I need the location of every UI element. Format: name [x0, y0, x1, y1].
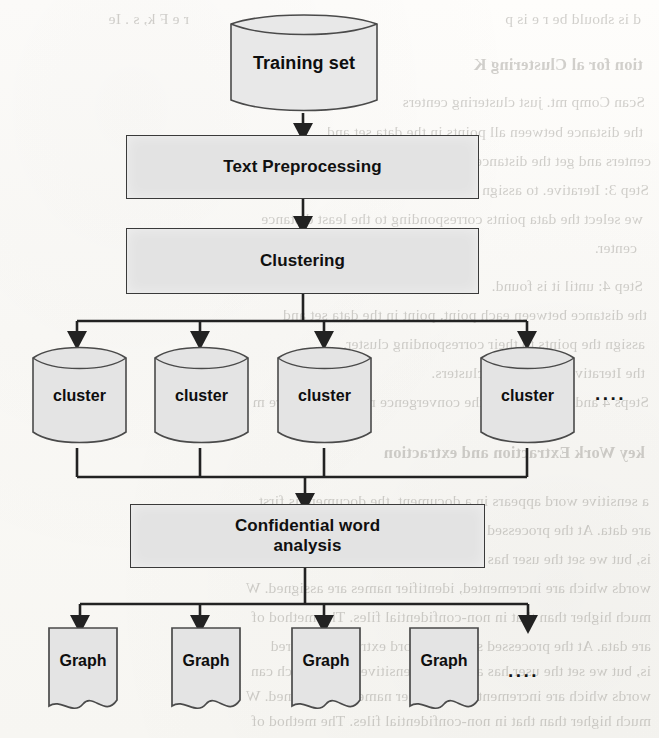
node-cluster-4[interactable]: cluster: [479, 342, 576, 448]
document-shape: [170, 626, 242, 718]
node-label: cluster: [479, 387, 576, 405]
node-cluster-2[interactable]: cluster: [153, 342, 250, 448]
node-cluster-3[interactable]: cluster: [276, 342, 373, 448]
node-training-set[interactable]: Training set: [228, 12, 380, 114]
node-label-line-2: analysis: [274, 536, 342, 555]
node-cluster-1[interactable]: cluster: [31, 342, 128, 448]
node-label: Graph: [290, 652, 362, 670]
node-label: cluster: [153, 387, 250, 405]
node-label: Graph: [408, 652, 480, 670]
document-shape: [408, 626, 480, 718]
document-shape: [290, 626, 362, 718]
node-label: Text Preprocessing: [217, 157, 387, 177]
scanned-page: d is should be r e is p r e F k, s . Ie …: [0, 0, 659, 738]
node-label: Training set: [228, 53, 380, 74]
node-graph-4[interactable]: Graph: [408, 626, 480, 718]
node-text-preprocessing[interactable]: Text Preprocessing: [126, 135, 479, 199]
node-label: Clustering: [254, 251, 351, 271]
flowchart-diagram: Training set Text Preprocessing Clusteri…: [0, 0, 659, 738]
node-graph-3[interactable]: Graph: [290, 626, 362, 718]
node-label: Confidential word analysis: [229, 516, 386, 556]
node-label: Graph: [47, 652, 119, 670]
node-confidential-word-analysis[interactable]: Confidential word analysis: [130, 504, 485, 568]
node-label: Graph: [170, 652, 242, 670]
node-label-line-1: Confidential word: [235, 516, 380, 535]
document-shape: [47, 626, 119, 718]
node-clustering[interactable]: Clustering: [126, 228, 479, 294]
node-graph-1[interactable]: Graph: [47, 626, 119, 718]
cluster-ellipsis: ....: [595, 383, 626, 405]
node-graph-2[interactable]: Graph: [170, 626, 242, 718]
graph-ellipsis: ....: [508, 660, 539, 682]
node-label: cluster: [31, 387, 128, 405]
node-label: cluster: [276, 387, 373, 405]
